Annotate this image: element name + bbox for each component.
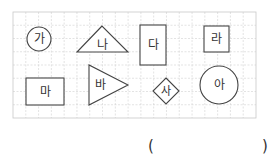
shape-label: 라: [211, 32, 222, 46]
shape-ba: 바: [89, 65, 128, 105]
answer-close-paren: ): [262, 137, 268, 155]
shape-a: 아: [200, 66, 238, 104]
shape-ga: 가: [27, 27, 51, 51]
answer-open-paren: (: [148, 137, 154, 155]
shape-na: 나: [77, 26, 128, 52]
shape-label: 아: [214, 78, 225, 92]
shape-label: 바: [95, 78, 106, 92]
shape-ma: 마: [26, 78, 64, 105]
shape-label: 마: [40, 85, 51, 99]
shape-da: 다: [140, 25, 166, 65]
shape-label: 다: [148, 38, 159, 52]
shape-label: 나: [97, 38, 108, 52]
answer-blank[interactable]: [160, 138, 260, 158]
shape-label: 가: [34, 32, 45, 46]
shape-label: 사: [161, 85, 171, 98]
shape-ra: 라: [204, 26, 229, 52]
shape-sa: 사: [153, 78, 179, 104]
